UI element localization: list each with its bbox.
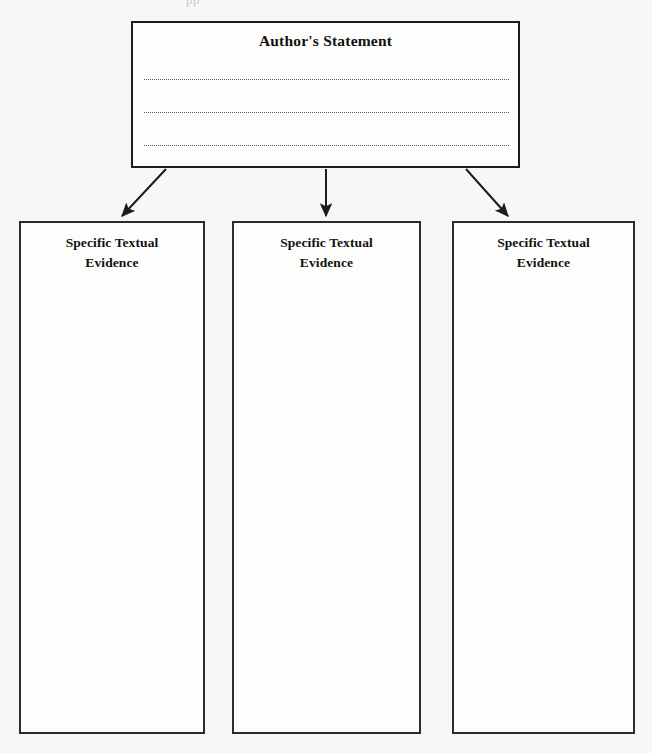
- evidence-label-line1: Specific Textual: [280, 235, 373, 250]
- arrow-to-evidence-1: [122, 169, 166, 216]
- evidence-box-2[interactable]: Specific Textual Evidence: [232, 221, 421, 734]
- evidence-box-2-label: Specific Textual Evidence: [242, 233, 411, 272]
- authors-statement-title: Author's Statement: [133, 32, 518, 50]
- authors-statement-box[interactable]: Author's Statement: [131, 21, 520, 168]
- evidence-label-line1: Specific Textual: [497, 235, 590, 250]
- evidence-box-3[interactable]: Specific Textual Evidence: [452, 221, 635, 734]
- statement-writing-line-1[interactable]: [144, 79, 509, 80]
- statement-writing-line-3[interactable]: [144, 145, 509, 146]
- evidence-box-1[interactable]: Specific Textual Evidence: [19, 221, 205, 734]
- evidence-label-line2: Evidence: [300, 255, 353, 270]
- evidence-label-line2: Evidence: [517, 255, 570, 270]
- graphic-organizer-worksheet: pp Author's Statement Specific Textual E…: [0, 0, 652, 753]
- evidence-label-line1: Specific Textual: [66, 235, 159, 250]
- scan-artifact-text: pp: [186, 0, 200, 8]
- evidence-label-line2: Evidence: [85, 255, 138, 270]
- statement-writing-line-2[interactable]: [144, 112, 509, 113]
- arrow-to-evidence-3: [466, 169, 508, 216]
- evidence-box-3-label: Specific Textual Evidence: [462, 233, 625, 272]
- evidence-box-1-label: Specific Textual Evidence: [29, 233, 195, 272]
